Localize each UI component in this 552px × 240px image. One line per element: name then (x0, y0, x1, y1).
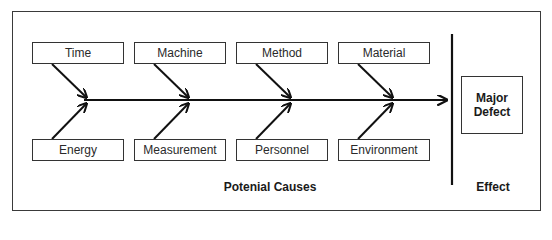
cause-box-time: Time (32, 42, 124, 64)
cause-box-method: Method (236, 42, 328, 64)
effect-caption: Effect (470, 180, 516, 194)
bone-arrow-method (256, 64, 290, 97)
effect-line-2: Defect (474, 105, 511, 119)
cause-box-personnel: Personnel (236, 139, 328, 161)
cause-box-measurement: Measurement (134, 139, 226, 161)
causes-caption: Potenial Causes (200, 180, 340, 194)
bone-arrow-environment (358, 104, 392, 139)
bone-arrow-personnel (256, 104, 290, 139)
effect-line-1: Major (474, 91, 511, 105)
bone-arrow-time (52, 64, 86, 97)
effect-box: Major Defect (461, 76, 523, 134)
bone-arrow-machine (154, 64, 188, 97)
bone-arrow-measurement (154, 104, 188, 139)
cause-box-energy: Energy (32, 139, 124, 161)
cause-box-material: Material (338, 42, 430, 64)
bone-arrow-energy (52, 104, 86, 139)
bone-arrow-material (358, 64, 392, 97)
cause-box-environment: Environment (338, 139, 430, 161)
cause-box-machine: Machine (134, 42, 226, 64)
